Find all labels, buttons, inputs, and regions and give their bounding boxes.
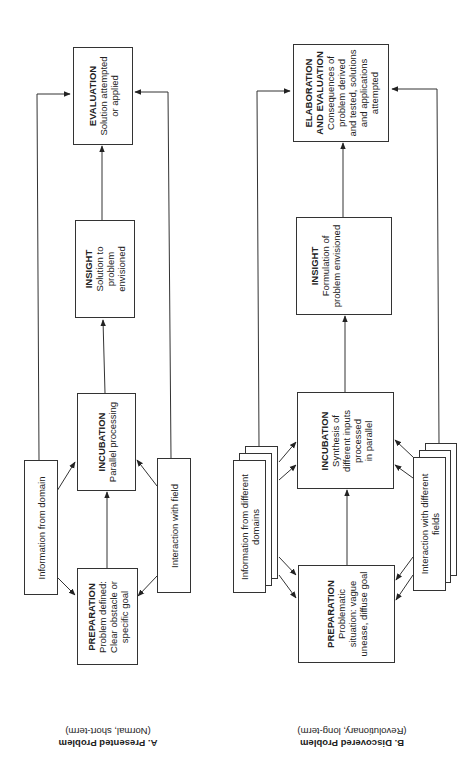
b-evaluation-line: and tested, solutions [347,49,358,136]
b-evaluation-line: problem derived [336,59,347,127]
b-preparation-line: unease, diffuse goal [358,572,369,657]
b-information-from-different-domains-box: Information from differentdomains [233,460,266,593]
b-evaluation-title: ELABORATION [303,49,314,136]
b-preparation-line: situation: vague [347,581,358,648]
b-input-left-line: Information from different [239,474,250,580]
a-insight-line: Solution to [94,247,105,292]
a-caption-subtitle: (Normal, short-term) [65,726,151,737]
a-evaluation-title: EVALUATION [87,56,98,135]
a-insight-line: problem [105,252,116,286]
a-input-left-label: Information from domain [36,476,47,579]
a-information-from-domain-box: Information from domain [24,460,58,595]
a-evaluation-line: Solution attempted [98,56,109,135]
b-incubation-line: processed [351,419,362,463]
a-incubation-line: Parallel processing [107,402,118,482]
b-preparation-title: PREPARATION [325,572,336,657]
a-preparation-line: Problem defined: [97,581,108,653]
a-caption-title: A. Presented Problem [50,737,166,749]
b-preparation-line: Problematic [336,589,347,639]
b-insight-line: problem envisioned [331,225,342,307]
a-evaluation-box: EVALUATIONSolution attemptedor applied [73,47,133,145]
b-input-right-line: fields [430,513,441,535]
b-incubation-line: Synthesis of [329,415,340,467]
a-evaluation-line: or applied [109,75,120,117]
a-preparation-title: PREPARATION [86,581,97,653]
a-insight-title: INSIGHT [83,246,94,291]
b-caption-title: B. Discovered Problem [292,737,412,749]
b-caption: B. Discovered Problem (Revolutionary, lo… [292,725,412,749]
a-insight-box: INSIGHTSolution toproblemenvisioned [75,220,135,318]
a-insight-line: envisioned [116,246,127,291]
b-incubation-title: INCUBATION [318,409,329,471]
a-preparation-box: PREPARATIONProblem defined:Clear obstacl… [77,568,138,665]
a-input-right-label: Interaction with field [169,484,180,568]
b-input-left-line: domains [250,509,261,545]
a-incubation-box: INCUBATIONParallel processing [77,393,136,491]
b-incubation-box: INCUBATIONSynthesis ofdifferent inputspr… [297,392,394,489]
b-caption-subtitle: (Revolutionary, long-term) [297,726,406,737]
b-incubation-line: different inputs [340,409,351,471]
b-evaluation-line: attempted [369,72,380,114]
b-interaction-with-different-fields-box: Interaction with differentfields [413,457,446,591]
a-caption: A. Presented Problem (Normal, short-term… [50,725,166,749]
b-elaboration-evaluation-box: ELABORATIONAND EVALUATIONConsequences of… [293,44,389,142]
b-preparation-box: PREPARATIONProblematicsituation: vagueun… [298,565,395,663]
b-insight-line: Formulation of [320,236,331,297]
b-evaluation-line: Consequences of [325,56,336,130]
b-evaluation-title2: AND EVALUATION [314,49,325,136]
b-input-right-line: Interaction with different [419,474,430,575]
a-preparation-line: Clear obstacle or [108,581,119,653]
b-evaluation-line: and applications [358,59,369,128]
a-incubation-title: INCUBATION [96,402,107,482]
a-interaction-with-field-box: Interaction with field [157,458,191,593]
b-insight-box: INSIGHTFormulation ofproblem envisioned [296,217,392,315]
b-incubation-line: in parallel [362,420,373,461]
b-insight-title: INSIGHT [309,225,320,307]
connector-arrows [0,0,468,759]
a-preparation-line: specific goal [119,590,130,642]
